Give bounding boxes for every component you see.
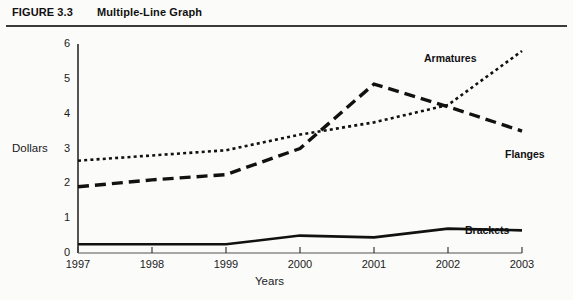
x-axis-tick-label: 2002	[428, 258, 468, 270]
x-axis-ticks	[78, 247, 522, 253]
series-label-flanges: Flanges	[505, 148, 545, 160]
x-axis-title: Years	[255, 275, 284, 287]
chart-series-group	[78, 51, 522, 244]
x-axis-tick-label: 2001	[354, 258, 394, 270]
y-axis-tick-label: 4	[58, 107, 70, 119]
y-axis-tick-label: 2	[58, 176, 70, 188]
y-axis-tick-label: 1	[58, 211, 70, 223]
figure-header: FIGURE 3.3 Multiple-Line Graph	[0, 0, 573, 26]
series-line-brackets	[78, 229, 522, 245]
y-axis-title: Dollars	[12, 142, 48, 154]
y-axis-tick-label: 6	[58, 37, 70, 49]
x-axis-tick-label: 1999	[206, 258, 246, 270]
series-line-armatures	[78, 51, 522, 161]
y-axis-tick-label: 0	[58, 246, 70, 258]
figure-title: Multiple-Line Graph	[97, 6, 202, 18]
y-axis-tick-label: 3	[58, 142, 70, 154]
header-divider	[6, 25, 567, 27]
x-axis-tick-label: 2003	[502, 258, 542, 270]
x-axis-tick-label: 1997	[58, 258, 98, 270]
y-axis-tick-label: 5	[58, 72, 70, 84]
series-label-armatures: Armatures	[424, 52, 477, 64]
series-label-brackets: Brackets	[465, 224, 509, 236]
line-chart: Dollars Years 0123456 199719981999200020…	[0, 28, 573, 300]
x-axis-tick-label: 2000	[280, 258, 320, 270]
x-axis-tick-label: 1998	[132, 258, 172, 270]
figure-number: FIGURE 3.3	[12, 6, 73, 18]
